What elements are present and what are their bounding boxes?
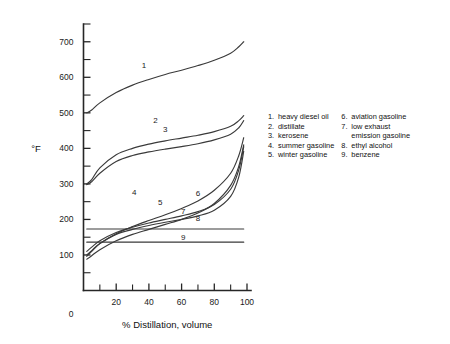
- x-axis-tick-label: 100: [240, 297, 254, 307]
- curve-number-label: 3: [163, 125, 168, 134]
- x-axis-tick-label: 60: [177, 297, 187, 307]
- legend-entry: 7.low exhaust: [341, 122, 410, 132]
- legend-entry-number: 6.: [341, 112, 351, 122]
- curve-number-label: 6: [196, 189, 201, 198]
- y-axis-tick-label: 100: [59, 250, 73, 260]
- tick-labels-group: 100200300400500600700020406080100: [59, 37, 254, 319]
- y-axis-title: °F: [31, 143, 41, 154]
- curve-number-label: 4: [132, 188, 137, 197]
- distillation-curve-figure: 100200300400500600700020406080100 123456…: [0, 0, 450, 344]
- data-curve: [87, 147, 244, 252]
- legend-entry: 3.kerosene: [268, 131, 334, 141]
- legend-entry: 1.heavy diesel oil: [268, 112, 334, 122]
- y-axis-tick-label: 700: [59, 37, 73, 47]
- x-axis-tick-label: 80: [210, 297, 220, 307]
- x-axis-tick-label: 40: [144, 297, 154, 307]
- legend-entry-number: 3.: [268, 131, 278, 141]
- legend-entry-label: distillate: [278, 122, 334, 132]
- y-axis-tick-label: 300: [59, 179, 73, 189]
- curves-group: [87, 42, 244, 259]
- legend-entry-label: winter gasoline: [278, 150, 334, 160]
- legend-entry-label: aviation gasoline: [351, 112, 410, 122]
- curve-number-label: 2: [153, 116, 158, 125]
- ticks-group: [84, 24, 248, 291]
- data-curve: [87, 138, 244, 257]
- x-axis-title: % Distillation, volume: [122, 319, 212, 330]
- legend-entry-label: ethyl alcohol: [351, 141, 410, 151]
- data-curve: [87, 151, 244, 255]
- legend-entry: 4.summer gasoline: [268, 141, 334, 151]
- legend-entry-number: 4.: [268, 141, 278, 151]
- curve-number-label: 8: [196, 214, 201, 223]
- y-axis-tick-label: 400: [59, 143, 73, 153]
- data-curve: [87, 42, 244, 113]
- legend-entry-number: 1.: [268, 112, 278, 122]
- legend-entry-number: 7.: [341, 122, 351, 132]
- legend-column-left: 1.heavy diesel oil2.distillate3.kerosene…: [268, 112, 334, 160]
- legend-entry-label: kerosene: [278, 131, 334, 141]
- legend-entry: 2.distillate: [268, 122, 334, 132]
- curve-number-label: 7: [181, 207, 186, 216]
- legend-entry: 5.winter gasoline: [268, 150, 334, 160]
- legend-entry: 8.ethyl alcohol: [341, 141, 410, 151]
- legend-entry-label: summer gasoline: [278, 141, 334, 151]
- legend-entry-number: 2.: [268, 122, 278, 132]
- axes-group: [84, 24, 252, 291]
- curve-number-label: 9: [181, 233, 186, 242]
- y-axis-tick-label: 500: [59, 108, 73, 118]
- y-axis-tick-label: 600: [59, 72, 73, 82]
- y-axis-tick-label: 200: [59, 214, 73, 224]
- legend-entry-label: heavy diesel oil: [278, 112, 334, 122]
- origin-tick-label: 0: [69, 309, 74, 319]
- legend-entry-label: emission gasoline: [351, 131, 410, 141]
- chart-legend: 1.heavy diesel oil2.distillate3.kerosene…: [268, 112, 444, 160]
- legend-entry-number: 5.: [268, 150, 278, 160]
- legend-entry-number: 9.: [341, 150, 351, 160]
- chart-plot-area: 100200300400500600700020406080100 123456…: [0, 0, 450, 344]
- legend-entry: 6.aviation gasoline: [341, 112, 410, 122]
- curve-number-label: 5: [158, 198, 163, 207]
- curve-number-label: 1: [142, 61, 147, 70]
- legend-entry: 9.benzene: [341, 150, 410, 160]
- legend-entry-number: 8.: [341, 141, 351, 151]
- legend-entry: emission gasoline: [341, 131, 410, 141]
- x-axis-tick-label: 20: [111, 297, 121, 307]
- legend-entry-label: benzene: [351, 150, 410, 160]
- legend-column-right: 6.aviation gasoline7.low exhaustemission…: [341, 112, 410, 160]
- legend-entry-label: low exhaust: [351, 122, 410, 132]
